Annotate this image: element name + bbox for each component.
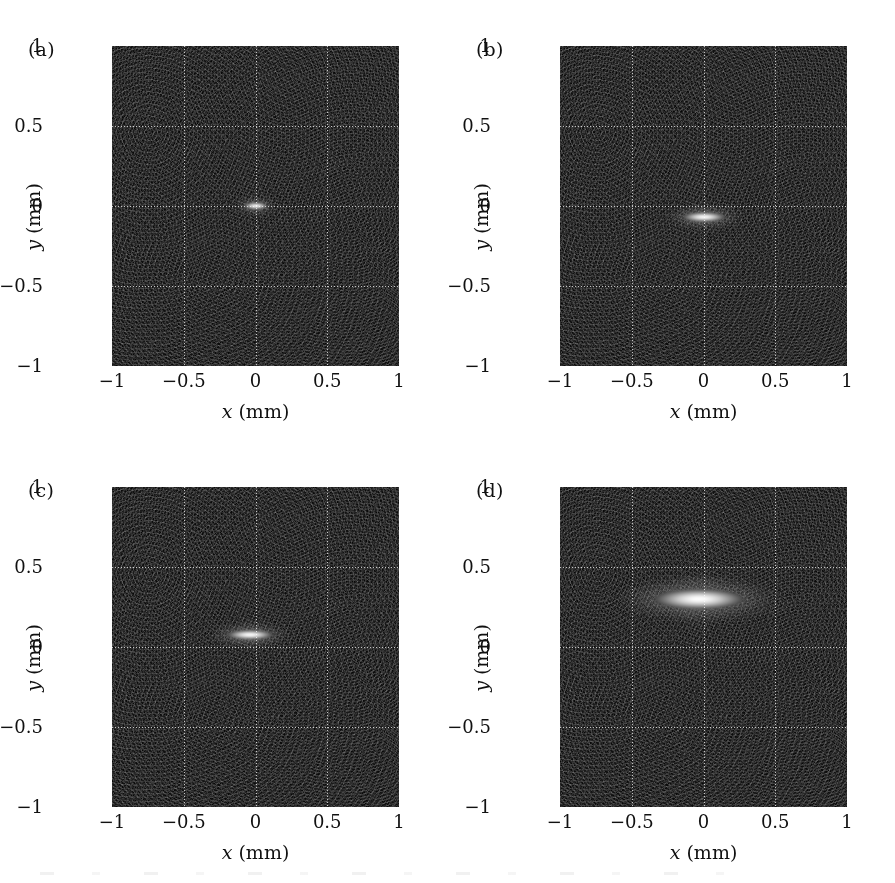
beam-image	[560, 46, 847, 366]
panel-a: (a)10.50−0.5−1−1−0.500.51x (mm)y (mm)	[0, 0, 447, 440]
x-axis-title: x (mm)	[560, 400, 847, 422]
x-tick-label: −1	[72, 813, 152, 831]
x-tick-label: 0	[216, 372, 296, 390]
gridline-horizontal	[112, 286, 399, 287]
gridline-horizontal	[560, 727, 847, 728]
y-axis-unit: (mm)	[22, 183, 44, 240]
y-tick-label: 1	[399, 37, 491, 55]
beam-profile-figure: (a)10.50−0.5−1−1−0.500.51x (mm)y (mm)(b)…	[0, 0, 895, 883]
x-tick-label: 0.5	[287, 372, 367, 390]
x-tick-label: −1	[520, 813, 600, 831]
x-axis-variable: x	[670, 400, 681, 422]
y-axis-title: y (mm)	[470, 578, 492, 738]
x-axis-title: x (mm)	[112, 841, 399, 863]
panel-b: (b)10.50−0.5−1−1−0.500.51x (mm)y (mm)	[448, 0, 895, 440]
y-axis-unit: (mm)	[470, 183, 492, 240]
y-tick-label: 0.5	[399, 558, 491, 576]
gridline-horizontal	[560, 206, 847, 207]
x-axis-variable: x	[222, 400, 233, 422]
x-tick-label: 0.5	[735, 372, 815, 390]
x-axis-title: x (mm)	[560, 841, 847, 863]
x-axis-unit: (mm)	[680, 841, 737, 863]
y-axis-variable: y	[22, 240, 44, 251]
x-tick-label: 0.5	[735, 813, 815, 831]
gridline-horizontal	[112, 126, 399, 127]
y-tick-label: −1	[0, 798, 43, 816]
y-axis-variable: y	[22, 681, 44, 692]
x-tick-label: 1	[807, 372, 887, 390]
x-tick-label: 0	[664, 372, 744, 390]
y-tick-label: −1	[399, 357, 491, 375]
y-tick-label: 0.5	[399, 117, 491, 135]
beam-image	[112, 487, 399, 807]
x-tick-label: −1	[72, 372, 152, 390]
x-tick-label: −0.5	[144, 813, 224, 831]
x-axis-title: x (mm)	[112, 400, 399, 422]
x-axis-variable: x	[670, 841, 681, 863]
x-axis-variable: x	[222, 841, 233, 863]
y-tick-label: 1	[399, 478, 491, 496]
y-axis-variable: y	[470, 240, 492, 251]
y-tick-label: −1	[0, 357, 43, 375]
gridline-horizontal	[560, 126, 847, 127]
x-axis-unit: (mm)	[232, 400, 289, 422]
y-axis-title: y (mm)	[22, 137, 44, 297]
gridline-horizontal	[560, 567, 847, 568]
y-axis-unit: (mm)	[22, 624, 44, 681]
gridline-horizontal	[560, 647, 847, 648]
x-tick-label: 0	[664, 813, 744, 831]
y-axis-unit: (mm)	[470, 624, 492, 681]
y-tick-label: −1	[399, 798, 491, 816]
y-tick-label: 0.5	[0, 117, 43, 135]
panel-d: (d)10.50−0.5−1−1−0.500.51x (mm)y (mm)	[448, 441, 895, 881]
y-tick-label: 1	[0, 478, 43, 496]
beam-image	[112, 46, 399, 366]
x-axis-unit: (mm)	[680, 400, 737, 422]
x-tick-label: −0.5	[592, 813, 672, 831]
x-axis-unit: (mm)	[232, 841, 289, 863]
x-tick-label: 0.5	[287, 813, 367, 831]
y-axis-title: y (mm)	[470, 137, 492, 297]
gridline-horizontal	[560, 286, 847, 287]
x-tick-label: −1	[520, 372, 600, 390]
beam-image	[560, 487, 847, 807]
y-tick-label: 0.5	[0, 558, 43, 576]
y-tick-label: 1	[0, 37, 43, 55]
x-tick-label: −0.5	[592, 372, 672, 390]
gridline-horizontal	[112, 727, 399, 728]
x-tick-label: 1	[807, 813, 887, 831]
gridline-horizontal	[112, 567, 399, 568]
gridline-horizontal	[112, 647, 399, 648]
panel-c: (c)10.50−0.5−1−1−0.500.51x (mm)y (mm)	[0, 441, 447, 881]
x-tick-label: 0	[216, 813, 296, 831]
y-axis-title: y (mm)	[22, 578, 44, 738]
x-tick-label: −0.5	[144, 372, 224, 390]
y-axis-variable: y	[470, 681, 492, 692]
gridline-horizontal	[112, 206, 399, 207]
